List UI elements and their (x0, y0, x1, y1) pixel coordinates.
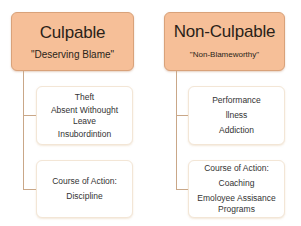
culpable-header-box: Culpable "Deserving Blame" (11, 12, 134, 71)
non-culpable-connector-to-action (176, 189, 188, 190)
culpable-examples-box: Theft Absent Withought Leave Insubordint… (36, 86, 133, 145)
non-culpable-example-illness: llness (226, 110, 248, 121)
non-culpable-header-box: Non-Culpable "Non-Blameworthy" (164, 12, 285, 71)
non-culpable-action-box: Course of Action: Coaching Emoloyee Assi… (188, 160, 285, 218)
non-culpable-subtitle: "Non-Blameworthy" (190, 49, 259, 61)
non-culpable-connector-to-examples (176, 115, 188, 116)
non-culpable-connector-vertical (176, 71, 177, 190)
culpable-connector-to-examples (23, 115, 36, 116)
culpable-subtitle: "Deserving Blame" (31, 49, 114, 61)
culpable-example-awol: Absent Withought Leave (45, 105, 125, 127)
non-culpable-example-performance: Performance (212, 95, 261, 106)
culpable-action-box: Course of Action: Discipline (36, 160, 133, 218)
culpable-example-theft: Theft (75, 92, 94, 103)
non-culpable-action-eap: Emoloyee Assisance Programs (192, 193, 282, 215)
culpable-connector-to-action (23, 189, 36, 190)
culpable-action-label: Course of Action: (52, 176, 117, 187)
culpable-action-discipline: Discipline (66, 191, 102, 202)
culpable-connector-vertical (23, 71, 24, 190)
non-culpable-action-label: Course of Action: (204, 163, 269, 174)
non-culpable-example-addiction: Addiction (219, 125, 254, 136)
non-culpable-examples-box: Performance llness Addiction (188, 86, 285, 145)
culpable-title: Culpable (40, 23, 106, 43)
culpable-example-insubordination: Insubordintion (58, 129, 111, 140)
non-culpable-action-coaching: Coaching (219, 178, 255, 189)
non-culpable-title: Non-Culpable (174, 22, 276, 42)
